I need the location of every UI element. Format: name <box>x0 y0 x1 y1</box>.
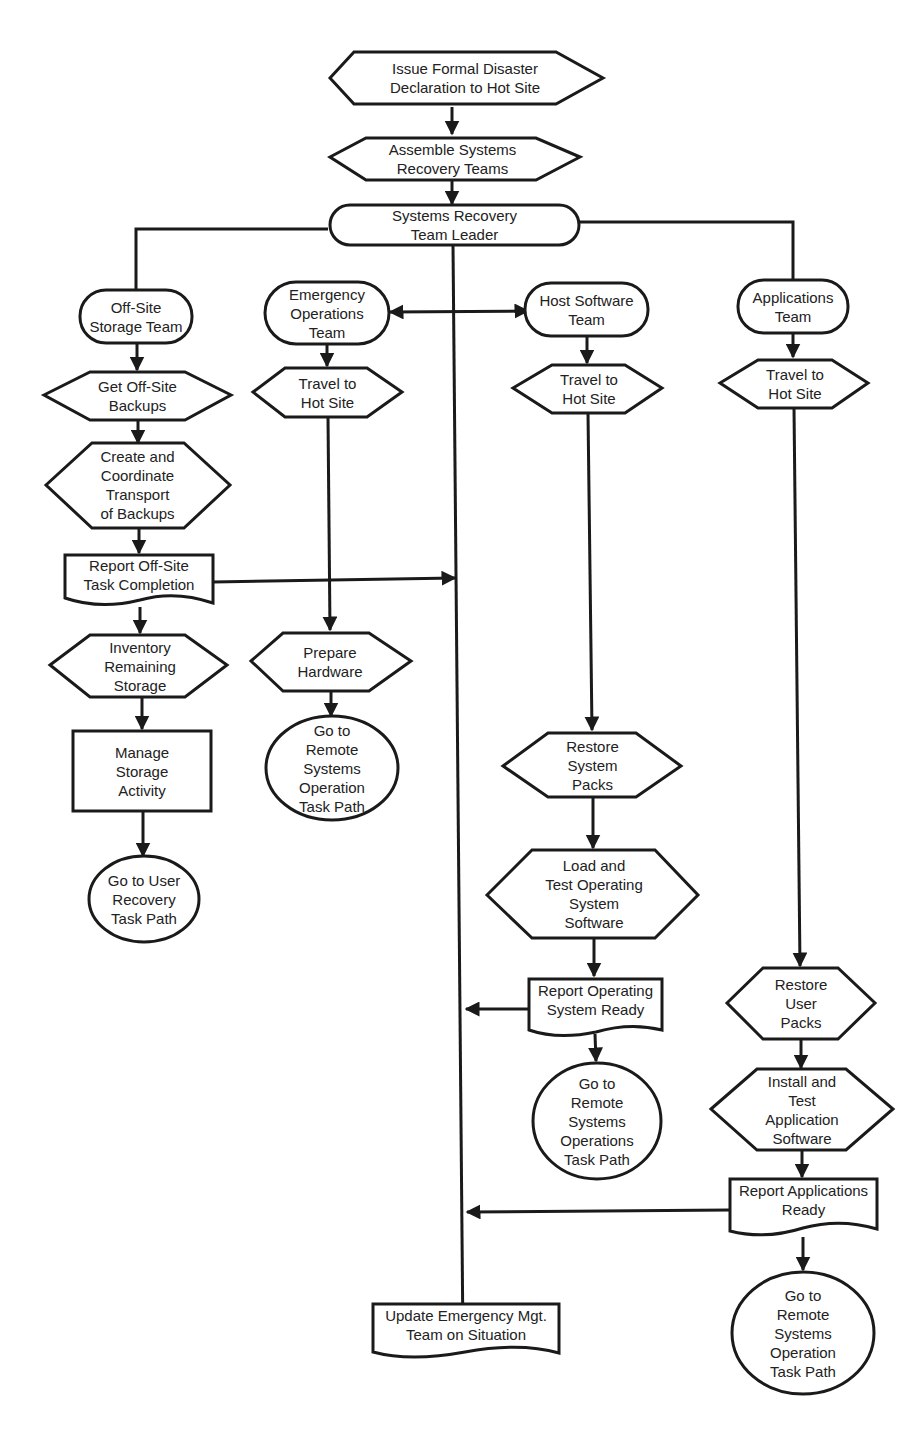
node-eo-travel-shape[interactable] <box>253 368 402 417</box>
node-hs-goto-shape[interactable] <box>533 1063 661 1179</box>
node-report-os-shape[interactable] <box>529 979 662 1036</box>
node-emergency-team-shape[interactable] <box>265 282 389 344</box>
node-restore-user-shape[interactable] <box>727 968 875 1039</box>
edge-reportapps-trunk <box>467 1210 729 1212</box>
node-transport-shape[interactable] <box>46 443 230 528</box>
node-offsite-team-shape[interactable] <box>80 290 192 343</box>
node-declare-shape[interactable] <box>330 52 603 104</box>
node-host-team-shape[interactable] <box>525 283 648 336</box>
edges <box>136 107 803 1343</box>
node-prepare-hw-shape[interactable] <box>251 633 411 691</box>
edge-leader-update-trunk <box>453 245 463 1343</box>
node-manage-storage-shape[interactable] <box>73 731 211 811</box>
nodes <box>44 52 893 1394</box>
node-update-emt-shape[interactable] <box>373 1304 559 1357</box>
edge-hstravel-restore <box>588 413 592 730</box>
node-ap-travel-shape[interactable] <box>720 360 868 408</box>
node-ap-goto-shape[interactable] <box>732 1272 874 1394</box>
node-report-offsite-shape[interactable] <box>65 555 213 605</box>
node-restore-sys-shape[interactable] <box>503 733 681 797</box>
edge-leader-apps <box>579 222 793 280</box>
edge-report-to-trunk <box>213 578 455 582</box>
edge-eotravel-prepare <box>328 417 330 630</box>
node-eo-goto-shape[interactable] <box>266 716 398 820</box>
edge-leader-emergency-host <box>390 311 528 312</box>
node-apps-team-shape[interactable] <box>738 280 848 333</box>
node-load-os-shape[interactable] <box>487 850 698 938</box>
edge-reportos-goto <box>595 1034 596 1061</box>
node-get-backups-shape[interactable] <box>44 372 231 420</box>
flowchart-canvas <box>0 0 923 1429</box>
node-assemble-shape[interactable] <box>330 138 580 180</box>
node-leader-shape[interactable] <box>330 205 579 245</box>
node-inventory-shape[interactable] <box>50 635 227 697</box>
node-hs-travel-shape[interactable] <box>513 365 662 413</box>
node-install-apps-shape[interactable] <box>711 1069 893 1150</box>
node-report-apps-shape[interactable] <box>730 1179 877 1235</box>
node-goto-user-shape[interactable] <box>89 856 199 942</box>
edge-aptravel-restoreuser <box>794 408 800 966</box>
